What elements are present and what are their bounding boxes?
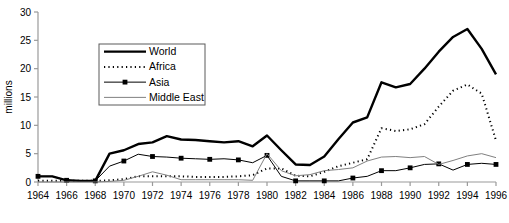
- legend-label-asia: Asia: [149, 76, 170, 88]
- y-axis-tick-label: 20: [20, 63, 32, 74]
- y-axis-tick-label: 5: [25, 148, 31, 159]
- x-axis-tick-label: 1982: [285, 190, 308, 201]
- series-marker-asia: [494, 162, 499, 167]
- y-axis-tick-label: 30: [20, 7, 32, 18]
- series-marker-asia: [179, 156, 184, 161]
- x-axis-tick-label: 1974: [170, 190, 193, 201]
- series-marker-asia: [150, 154, 155, 159]
- x-axis-tick-label: 1972: [141, 190, 164, 201]
- y-axis-title: millions: [3, 80, 14, 113]
- x-axis-tick-label: 1986: [342, 190, 365, 201]
- x-axis-tick-label: 1992: [428, 190, 451, 201]
- x-axis-tick-label: 1988: [370, 190, 393, 201]
- series-marker-asia: [236, 158, 241, 163]
- x-axis-tick-label: 1990: [399, 190, 422, 201]
- x-axis-tick-label: 1994: [456, 190, 479, 201]
- series-marker-asia: [93, 178, 98, 183]
- series-marker-asia: [350, 176, 355, 181]
- x-axis-tick-label: 1980: [256, 190, 279, 201]
- x-axis-tick-label: 1984: [313, 190, 336, 201]
- y-axis-tick-label: 25: [20, 35, 32, 46]
- legend-label-world: World: [149, 45, 176, 57]
- series-marker-asia: [207, 157, 212, 162]
- legend-marker-asia: [123, 80, 128, 85]
- x-axis-tick-label: 1970: [113, 190, 136, 201]
- series-marker-asia: [379, 168, 384, 173]
- series-marker-asia: [408, 165, 413, 170]
- series-marker-asia: [121, 159, 126, 164]
- chart-container: 0510152025301964196619681970197219741976…: [0, 0, 509, 223]
- series-marker-asia: [465, 162, 470, 167]
- x-axis-tick-label: 1996: [485, 190, 508, 201]
- y-axis-tick-label: 10: [20, 120, 32, 131]
- series-marker-asia: [322, 178, 327, 183]
- y-axis-tick-label: 0: [25, 177, 31, 188]
- legend-label-middle-east: Middle East: [149, 91, 204, 103]
- y-axis-tick-label: 15: [20, 92, 32, 103]
- legend-label-africa: Africa: [149, 60, 176, 72]
- x-axis-tick-label: 1964: [27, 190, 50, 201]
- series-marker-asia: [293, 178, 298, 183]
- x-axis-tick-label: 1966: [56, 190, 79, 201]
- x-axis-tick-label: 1968: [84, 190, 107, 201]
- x-axis-tick-label: 1976: [199, 190, 222, 201]
- series-marker-asia: [36, 174, 41, 179]
- line-chart: 0510152025301964196619681970197219741976…: [0, 0, 509, 223]
- x-axis-tick-label: 1978: [227, 190, 250, 201]
